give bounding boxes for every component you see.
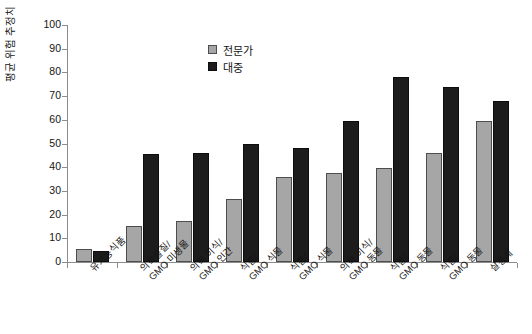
y-axis-tick-label: 90 [35,42,61,54]
y-axis-tick-label: 70 [35,89,61,101]
y-axis-tick-label: 30 [35,184,61,196]
legend-item-expert: 전문가 [208,42,318,57]
y-axis-tick-label: 80 [35,65,61,77]
y-axis-tick [62,25,67,26]
y-axis-tick-label: 100 [35,18,61,30]
bar-chart: 평균 위험 추정치 0102030405060708090100 유기농식품의학… [0,0,532,334]
x-axis-tick [117,263,118,268]
y-axis-tick [62,238,67,239]
y-axis-tick-label: 50 [35,137,61,149]
legend-swatch-icon-public [208,62,217,71]
y-axis-title: 평균 위험 추정치 [2,0,16,104]
y-axis-tick-label: 60 [35,113,61,125]
legend-label-public: 대중 [223,59,243,75]
x-axis-tick [67,263,68,268]
legend: 전문가 대중 [208,42,318,76]
x-axis-tick [517,263,518,268]
legend-swatch-icon-expert [208,45,217,54]
legend-label-expert: 전문가 [223,42,253,58]
y-axis-line [67,25,68,263]
y-axis-tick [62,49,67,50]
y-axis-tick-label: 20 [35,208,61,220]
y-axis-tick-label: 0 [35,255,61,267]
y-axis-tick-label: 40 [35,160,61,172]
y-axis-tick-label: 10 [35,231,61,243]
y-axis-tick [62,167,67,168]
y-axis-tick [62,144,67,145]
y-axis-tick [62,191,67,192]
y-axis-tick [62,215,67,216]
y-axis-tick [62,72,67,73]
legend-item-public: 대중 [208,59,318,74]
y-axis-tick [62,120,67,121]
bar-expert [76,249,92,262]
y-axis-tick [62,96,67,97]
